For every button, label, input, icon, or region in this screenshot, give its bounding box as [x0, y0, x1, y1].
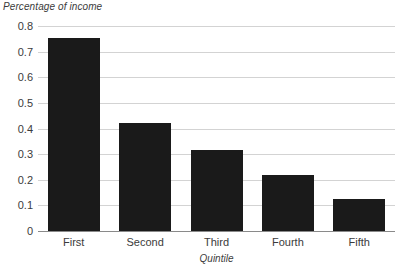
x-axis-title: Quintile: [157, 253, 277, 264]
plot-area: [38, 26, 395, 231]
y-tick-label: 0.2: [0, 174, 33, 186]
x-tick-label: Fifth: [319, 236, 399, 248]
x-tick-label: First: [34, 236, 114, 248]
y-axis-title: Percentage of income: [3, 1, 102, 12]
gridline: [38, 26, 395, 27]
y-tick-label: 0.4: [0, 123, 33, 135]
bar-chart: Percentage of income 0.80.70.60.50.40.30…: [0, 0, 401, 272]
y-tick-label: 0.7: [0, 46, 33, 58]
bar: [48, 38, 100, 231]
x-tick-label: Second: [105, 236, 185, 248]
x-axis-line: [38, 231, 395, 232]
y-tick-label: 0.1: [0, 199, 33, 211]
x-tick-label: Third: [177, 236, 257, 248]
x-tick-label: Fourth: [248, 236, 328, 248]
bar: [191, 150, 243, 231]
y-tick-label: 0.6: [0, 71, 33, 83]
bar: [262, 175, 314, 231]
bar: [333, 199, 385, 231]
y-tick-label: 0.3: [0, 148, 33, 160]
y-tick-label: 0.8: [0, 20, 33, 32]
y-tick-label: 0: [0, 225, 33, 237]
bar: [119, 123, 171, 231]
y-tick-label: 0.5: [0, 97, 33, 109]
